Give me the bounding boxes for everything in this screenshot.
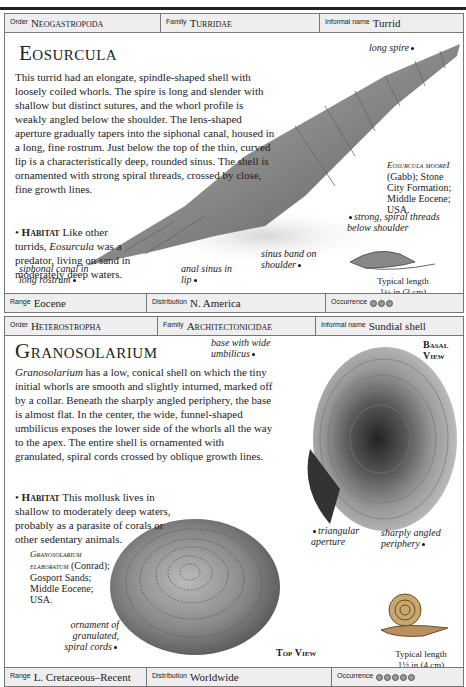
entry-header: Order Heterostropha Family Architectonic… <box>5 317 463 336</box>
entry-header: Order Neogastropoda Family Turridae Info… <box>5 14 463 33</box>
order-value: Heterostropha <box>31 320 101 332</box>
occurrence-dot-icon <box>392 674 399 681</box>
granosolarium-basal-view-illustration <box>300 339 460 539</box>
distribution-cell: Distribution Worldwide <box>147 668 332 686</box>
annotation-triangular-aperture: triangular aperture <box>311 525 381 547</box>
occurrence-cell: Occurrence <box>332 668 463 686</box>
granosolarium-life-illustration <box>373 592 453 642</box>
range-value: Eocene <box>34 297 66 309</box>
specimen-caption: Eosurcula mooreI (Gabb); Stone City Form… <box>387 159 459 215</box>
habitat-genus: Eosurcula <box>49 240 94 252</box>
occurrence-dot-icon <box>376 674 383 681</box>
informal-name-cell: Informal name Sundial shell <box>316 317 463 335</box>
order-cell: Order Neogastropoda <box>5 14 161 32</box>
family-label: Family <box>166 18 187 25</box>
entry-footer: Range L. Cretaceous–Recent Distribution … <box>5 667 463 686</box>
annotation-ornament-cords: ornament of granulated, spiral cords <box>59 619 119 652</box>
family-value: Turridae <box>190 17 232 29</box>
eosurcula-life-illustration <box>345 244 445 274</box>
family-cell: Family Architectonicidae <box>158 317 316 335</box>
specimen-caption: Granosolarium elaboratum (Conrad); Gospo… <box>30 548 110 605</box>
basal-view-label: Basal View <box>423 339 459 361</box>
informal-name-value: Sundial shell <box>369 320 426 332</box>
occurrence-dot-icon <box>386 300 393 307</box>
annotation-long-spire: long spire <box>369 42 416 53</box>
entry-footer: Range Eocene Distribution N. America Occ… <box>5 293 463 312</box>
annotation-angled-periphery: sharply angled periphery <box>381 527 461 549</box>
annotation-anal-sinus: anal sinus in lip <box>181 263 241 285</box>
occurrence-dot-icon <box>408 674 415 681</box>
entry-title: Granosolarium <box>15 339 158 364</box>
annotation-siphonal-canal: siphonal canal in long rostrum <box>19 263 99 285</box>
page-top-rule <box>0 7 466 10</box>
informal-name-cell: Informal name Turrid <box>320 14 463 32</box>
bullet: • <box>15 226 22 238</box>
entry-title: Eosurcula <box>19 41 117 66</box>
range-cell: Range L. Cretaceous–Recent <box>5 668 147 686</box>
description-text: has a low, conical shell on which the ti… <box>15 366 272 462</box>
annotation-sinus-band: sinus band on shoulder <box>261 248 331 270</box>
entry-eosurcula: Order Neogastropoda Family Turridae Info… <box>4 13 464 313</box>
habitat-label: Habitat <box>22 491 60 503</box>
habitat-label: Habitat <box>22 226 60 238</box>
distribution-value: Worldwide <box>190 671 239 683</box>
distribution-cell: Distribution N. America <box>147 294 326 312</box>
order-cell: Order Heterostropha <box>5 317 158 335</box>
occurrence-dot-icon <box>378 300 385 307</box>
informal-name-label: Informal name <box>325 18 370 25</box>
entry-granosolarium: Order Heterostropha Family Architectonic… <box>4 316 464 687</box>
range-cell: Range Eocene <box>5 294 147 312</box>
order-label: Order <box>10 18 28 25</box>
family-value: Architectonicidae <box>187 320 273 332</box>
occurrence-rating-icons <box>376 674 415 681</box>
occurrence-dot-icon <box>384 674 391 681</box>
entry-description: This turrid had an elongate, spindle-sha… <box>15 70 275 196</box>
entry-description: Granosolarium has a low, conical shell o… <box>15 365 275 463</box>
top-view-label: Top View <box>276 647 316 658</box>
specimen-name: Eosurcula mooreI <box>387 160 449 170</box>
specimen-details: (Gabb); Stone City Formation; Middle Eoc… <box>387 171 451 215</box>
description-genus: Granosolarium <box>15 366 83 378</box>
occurrence-dot-icon <box>400 674 407 681</box>
range-value: L. Cretaceous–Recent <box>34 671 131 683</box>
occurrence-dot-icon <box>370 300 377 307</box>
occurrence-cell: Occurrence <box>326 294 463 312</box>
distribution-value: N. America <box>190 297 241 309</box>
habitat-paragraph: • Habitat This mollusk lives in shallow … <box>15 490 175 546</box>
occurrence-rating-icons <box>370 300 393 307</box>
family-cell: Family Turridae <box>161 14 320 32</box>
annotation-base-umbilicus: base with wide umbilicus <box>211 337 291 359</box>
informal-name-value: Turrid <box>373 17 401 29</box>
description-text: This turrid had an elongate, spindle-sha… <box>15 71 274 195</box>
order-value: Neogastropoda <box>31 17 103 29</box>
